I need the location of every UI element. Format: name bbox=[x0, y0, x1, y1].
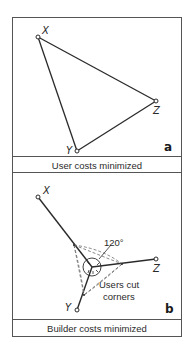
node-x-icon bbox=[36, 35, 40, 39]
node-y-icon bbox=[75, 308, 79, 312]
panel-a-user-costs: X Z Y a bbox=[13, 18, 181, 156]
annotation-line-2: corners bbox=[103, 291, 135, 302]
cut-point-x bbox=[73, 244, 75, 246]
caption-a: User costs minimized bbox=[13, 156, 181, 173]
panel-letter-a: a bbox=[164, 140, 172, 154]
node-label-y: Y bbox=[65, 302, 72, 313]
edge-x-junction bbox=[38, 197, 92, 267]
cut-point-y bbox=[83, 294, 85, 296]
panel-b-builder-costs: X Z Y 120° Users cut corners b bbox=[13, 173, 181, 319]
figure-frame: X Z Y a User costs minimized bbox=[12, 17, 182, 337]
node-y-icon bbox=[75, 149, 79, 153]
node-label-x: X bbox=[42, 185, 51, 196]
panel-letter-b: b bbox=[165, 302, 174, 316]
edge-junction-y bbox=[77, 267, 92, 310]
node-z-icon bbox=[154, 99, 158, 103]
node-label-x: X bbox=[41, 25, 50, 36]
annotation-line-1: Users cut bbox=[99, 279, 139, 290]
node-label-z: Z bbox=[152, 105, 161, 116]
caption-b: Builder costs minimized bbox=[13, 319, 181, 337]
cut-point-z bbox=[121, 263, 123, 265]
node-label-y: Y bbox=[66, 145, 73, 156]
node-z-icon bbox=[154, 257, 158, 261]
angle-label: 120° bbox=[104, 237, 124, 248]
edge-y-x bbox=[38, 37, 77, 151]
node-label-z: Z bbox=[152, 263, 161, 274]
edge-x-z bbox=[38, 37, 156, 101]
steiner-network-diagram: X Z Y 120° Users cut corners b bbox=[13, 173, 183, 319]
edge-z-y bbox=[77, 101, 156, 151]
triangle-network-diagram: X Z Y a bbox=[13, 18, 183, 156]
edge-junction-z bbox=[92, 259, 156, 267]
node-x-icon bbox=[36, 195, 40, 199]
